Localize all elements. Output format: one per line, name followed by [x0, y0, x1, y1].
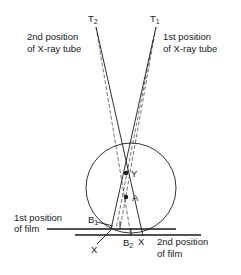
label-film-pos2-line1: 2nd position [157, 236, 208, 247]
label-b1: B1 [88, 214, 98, 226]
label-tube-pos1-line1: 1st position [163, 31, 211, 42]
label-film-pos1-line1: 1st position [14, 212, 62, 223]
ray-t2-to-x [96, 27, 143, 236]
label-tube-pos2-line2: of X-ray tube [27, 43, 81, 54]
point-y [124, 171, 128, 175]
ray-t2-to-b2 [96, 27, 131, 236]
label-a: A [132, 192, 139, 203]
label-y: Y [131, 168, 138, 179]
point-a [124, 195, 128, 199]
label-t2: T2 [88, 13, 98, 25]
label-t1: T1 [150, 13, 160, 25]
leader-x-left [97, 230, 111, 244]
label-x-right: X [138, 236, 145, 247]
leader-b1 [97, 222, 113, 226]
label-film-pos2-line2: of film [157, 248, 182, 259]
label-film-pos1-line2: of film [14, 223, 39, 234]
label-x-left: X [91, 244, 98, 255]
label-tube-pos2-line1: 2nd position [27, 31, 78, 42]
object-circle [86, 143, 176, 233]
label-tube-pos1-line2: of X-ray tube [163, 43, 217, 54]
label-b2: B2 [123, 237, 133, 249]
xray-parallax-diagram: T2 T1 2nd position of X-ray tube 1st pos… [0, 0, 241, 275]
